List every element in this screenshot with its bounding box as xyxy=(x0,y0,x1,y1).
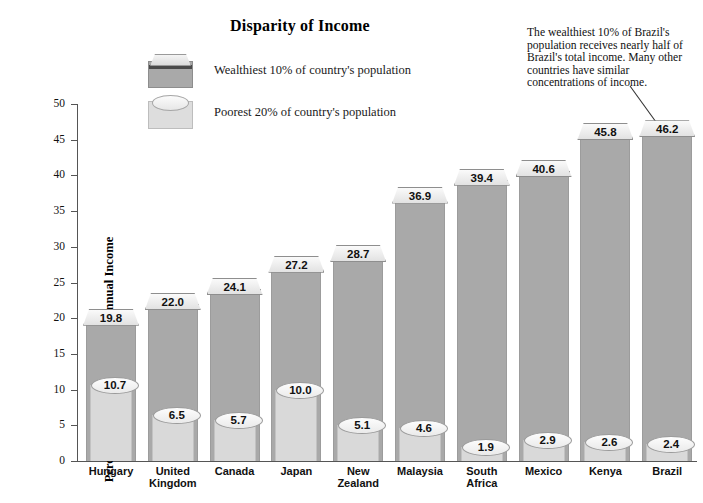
bar-value-label-wealthiest: 45.8 xyxy=(577,123,633,140)
y-tick-label-30: 30 xyxy=(25,240,65,252)
bar-value-label-wealthiest: 24.1 xyxy=(207,278,263,295)
annotation-text: The wealthiest 10% of Brazil's populatio… xyxy=(527,27,699,90)
chart-canvas: Disparity of Income Wealthiest 10% of co… xyxy=(0,0,703,503)
x-axis-label-brazil: Brazil xyxy=(630,466,703,478)
bar-value-label-poorest: 10.7 xyxy=(91,377,139,394)
legend-item-wealthiest: Wealthiest 10% of country's population xyxy=(146,52,506,94)
bar-group[interactable]: 22.06.5 xyxy=(148,304,198,461)
bar-group[interactable]: 19.810.7 xyxy=(86,320,136,461)
y-tick-0 xyxy=(71,461,77,462)
y-tick-25 xyxy=(71,283,77,284)
x-axis-line xyxy=(77,461,697,462)
bar-group[interactable]: 27.210.0 xyxy=(271,267,321,461)
y-tick-45 xyxy=(71,140,77,141)
y-tick-30 xyxy=(71,247,77,248)
y-tick-label-25: 25 xyxy=(25,276,65,288)
bar-value-label-poorest: 6.5 xyxy=(153,407,201,424)
bar-group[interactable]: 46.22.4 xyxy=(642,131,692,461)
bar-group[interactable]: 40.62.9 xyxy=(519,171,569,461)
y-tick-label-50: 50 xyxy=(25,97,65,109)
bar-value-label-wealthiest: 46.2 xyxy=(639,120,695,137)
y-tick-label-0: 0 xyxy=(25,454,65,466)
y-tick-label-45: 45 xyxy=(25,133,65,145)
y-tick-15 xyxy=(71,354,77,355)
bar-group[interactable]: 24.15.7 xyxy=(210,289,260,461)
bar-group[interactable]: 36.94.6 xyxy=(395,198,445,461)
y-tick-label-5: 5 xyxy=(25,418,65,430)
bar-value-label-wealthiest: 27.2 xyxy=(268,256,324,273)
bar-poorest[interactable] xyxy=(90,385,132,461)
y-tick-label-35: 35 xyxy=(25,204,65,216)
y-tick-5 xyxy=(71,425,77,426)
bar-wealthiest[interactable] xyxy=(457,180,507,461)
bar-value-label-wealthiest: 19.8 xyxy=(83,309,139,326)
dark-box-swatch-icon xyxy=(146,52,195,88)
y-tick-10 xyxy=(71,390,77,391)
bar-value-label-wealthiest: 36.9 xyxy=(392,187,448,204)
bar-group[interactable]: 39.41.9 xyxy=(457,180,507,461)
bar-value-label-poorest: 2.4 xyxy=(647,436,695,453)
y-tick-label-15: 15 xyxy=(25,347,65,359)
y-tick-35 xyxy=(71,211,77,212)
bar-value-label-wealthiest: 39.4 xyxy=(454,169,510,186)
bar-wealthiest[interactable] xyxy=(642,131,692,461)
y-tick-label-20: 20 xyxy=(25,311,65,323)
bar-group[interactable]: 28.75.1 xyxy=(333,256,383,461)
page-title: Disparity of Income xyxy=(170,17,430,35)
legend-label-wealthiest: Wealthiest 10% of country's population xyxy=(214,63,411,78)
bar-value-label-poorest: 5.1 xyxy=(338,417,386,434)
bar-value-label-poorest: 10.0 xyxy=(276,382,324,399)
y-tick-20 xyxy=(71,318,77,319)
bar-wealthiest[interactable] xyxy=(580,134,630,461)
bar-group[interactable]: 45.82.6 xyxy=(580,134,630,461)
y-tick-label-40: 40 xyxy=(25,168,65,180)
y-tick-label-10: 10 xyxy=(25,383,65,395)
y-tick-50 xyxy=(71,104,77,105)
bar-value-label-wealthiest: 28.7 xyxy=(330,245,386,262)
bar-value-label-wealthiest: 40.6 xyxy=(516,160,572,177)
bar-value-label-wealthiest: 22.0 xyxy=(145,293,201,310)
bar-wealthiest[interactable] xyxy=(519,171,569,461)
y-tick-40 xyxy=(71,175,77,176)
bar-poorest[interactable] xyxy=(275,390,317,461)
